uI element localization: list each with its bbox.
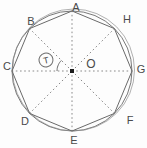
- vertex-label-a: A: [72, 1, 80, 13]
- octagon-circle-diagram: TOABCDEFGH: [0, 0, 147, 148]
- vertex-label-f: F: [127, 114, 134, 126]
- center-point: [70, 69, 74, 73]
- vertex-label-g: G: [137, 63, 146, 75]
- vertex-label-d: D: [21, 115, 29, 127]
- center-label: O: [86, 57, 95, 71]
- vertex-label-c: C: [3, 60, 11, 72]
- angle-badge-label: T: [42, 55, 50, 66]
- angle-arc: [57, 60, 61, 71]
- radius-line-f: [72, 71, 114, 113]
- vertex-label-e: E: [70, 134, 77, 146]
- diagram-canvas: TOABCDEFGH: [0, 0, 147, 148]
- radius-line-d: [30, 71, 72, 113]
- vertex-label-b: B: [27, 15, 34, 27]
- vertex-label-h: H: [123, 13, 131, 25]
